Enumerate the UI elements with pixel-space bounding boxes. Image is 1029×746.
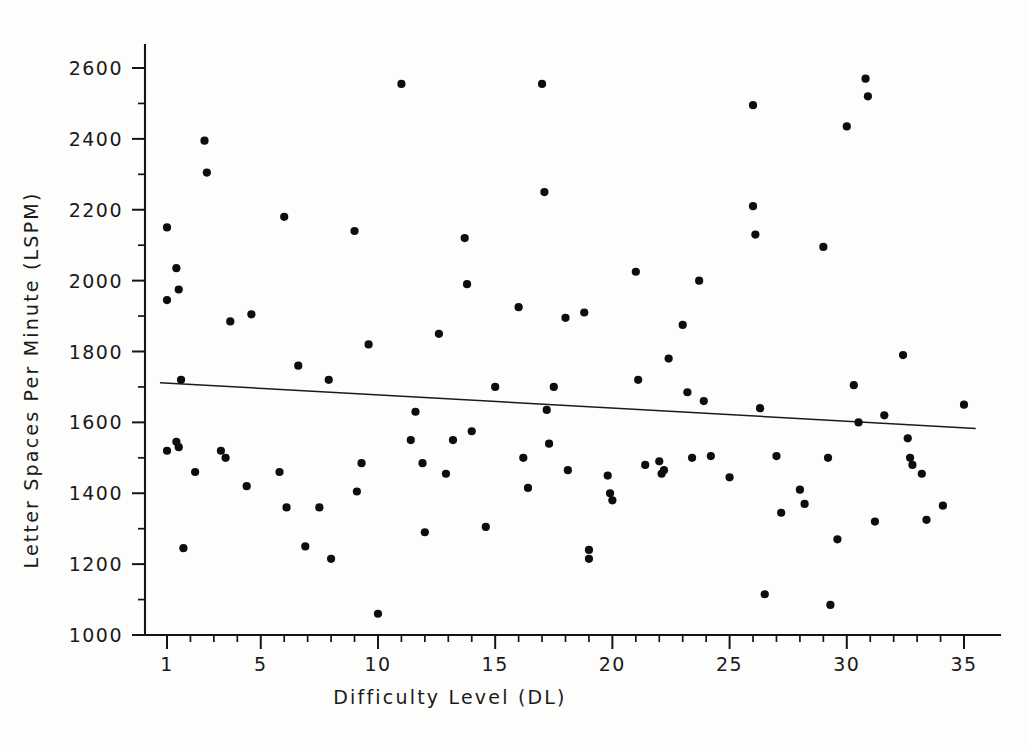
data-point <box>468 427 476 435</box>
data-point <box>707 452 715 460</box>
data-point <box>688 454 696 462</box>
axes <box>145 45 1000 635</box>
data-point <box>357 459 365 467</box>
data-point <box>226 317 234 325</box>
data-point <box>461 234 469 242</box>
y-axis-tick-labels: 100012001400160018002000220024002600 <box>69 57 123 646</box>
y-tick-label: 2200 <box>69 199 123 221</box>
data-point <box>353 487 361 495</box>
data-point <box>247 310 255 318</box>
data-point <box>632 268 640 276</box>
data-point <box>634 376 642 384</box>
data-point <box>350 227 358 235</box>
data-point <box>756 404 764 412</box>
data-point <box>580 308 588 316</box>
data-point <box>749 202 757 210</box>
regression-line <box>160 383 976 429</box>
y-tick-label: 2400 <box>69 128 123 150</box>
data-point <box>172 264 180 272</box>
data-point <box>177 376 185 384</box>
data-point <box>315 503 323 511</box>
data-point <box>777 509 785 517</box>
data-point <box>850 381 858 389</box>
y-axis-title: Letter Spaces Per Minute (LSPM) <box>20 192 42 569</box>
data-point <box>540 188 548 196</box>
data-point <box>695 277 703 285</box>
data-point <box>749 101 757 109</box>
data-point <box>665 354 673 362</box>
x-axis-tick-labels: 15101520253035 <box>160 653 977 675</box>
data-point <box>482 523 490 531</box>
data-point <box>200 137 208 145</box>
data-point <box>960 401 968 409</box>
tick-marks <box>132 68 964 649</box>
data-point <box>301 542 309 550</box>
data-point <box>906 454 914 462</box>
data-point <box>163 296 171 304</box>
x-tick-label: 1 <box>160 653 174 675</box>
data-point <box>561 314 569 322</box>
data-point <box>608 496 616 504</box>
data-point <box>397 80 405 88</box>
data-point <box>824 454 832 462</box>
data-point <box>833 535 841 543</box>
data-point <box>463 280 471 288</box>
y-tick-label: 1200 <box>69 553 123 575</box>
data-point <box>655 457 663 465</box>
data-point <box>175 443 183 451</box>
data-point <box>524 484 532 492</box>
y-tick-label: 1000 <box>69 624 123 646</box>
data-point <box>282 503 290 511</box>
data-point <box>819 243 827 251</box>
data-point <box>435 330 443 338</box>
data-point <box>163 447 171 455</box>
data-point <box>222 454 230 462</box>
data-point <box>843 122 851 130</box>
data-point <box>217 447 225 455</box>
data-point <box>660 466 668 474</box>
data-point <box>904 434 912 442</box>
y-tick-label: 2000 <box>69 270 123 292</box>
data-point <box>772 452 780 460</box>
data-point <box>826 601 834 609</box>
data-point <box>864 92 872 100</box>
data-point <box>604 471 612 479</box>
x-tick-label: 25 <box>716 653 743 675</box>
data-point <box>700 397 708 405</box>
data-point <box>871 518 879 526</box>
data-point <box>442 470 450 478</box>
data-point <box>585 546 593 554</box>
data-point <box>449 436 457 444</box>
data-point <box>543 406 551 414</box>
data-point <box>275 468 283 476</box>
data-point <box>751 230 759 238</box>
x-tick-label: 30 <box>833 653 860 675</box>
data-point <box>585 555 593 563</box>
data-point <box>418 459 426 467</box>
y-tick-label: 1800 <box>69 341 123 363</box>
data-point <box>861 75 869 83</box>
x-tick-label: 10 <box>364 653 391 675</box>
scatter-plot-figure: 100012001400160018002000220024002600 151… <box>0 0 1029 746</box>
data-point <box>801 500 809 508</box>
data-point <box>374 610 382 618</box>
data-point <box>491 383 499 391</box>
data-point <box>243 482 251 490</box>
data-point <box>515 303 523 311</box>
data-point <box>175 285 183 293</box>
data-point <box>163 223 171 231</box>
x-tick-label: 20 <box>599 653 626 675</box>
data-point <box>191 468 199 476</box>
x-tick-label: 15 <box>482 653 509 675</box>
data-point <box>564 466 572 474</box>
data-point <box>421 528 429 536</box>
x-tick-label: 5 <box>254 653 268 675</box>
data-point <box>918 470 926 478</box>
x-axis-title: Difficulty Level (DL) <box>333 686 567 708</box>
data-point <box>203 168 211 176</box>
x-tick-label: 35 <box>950 653 977 675</box>
data-point <box>407 436 415 444</box>
y-tick-label: 2600 <box>69 57 123 79</box>
data-point <box>683 388 691 396</box>
plot-canvas: 100012001400160018002000220024002600 151… <box>0 0 1029 746</box>
